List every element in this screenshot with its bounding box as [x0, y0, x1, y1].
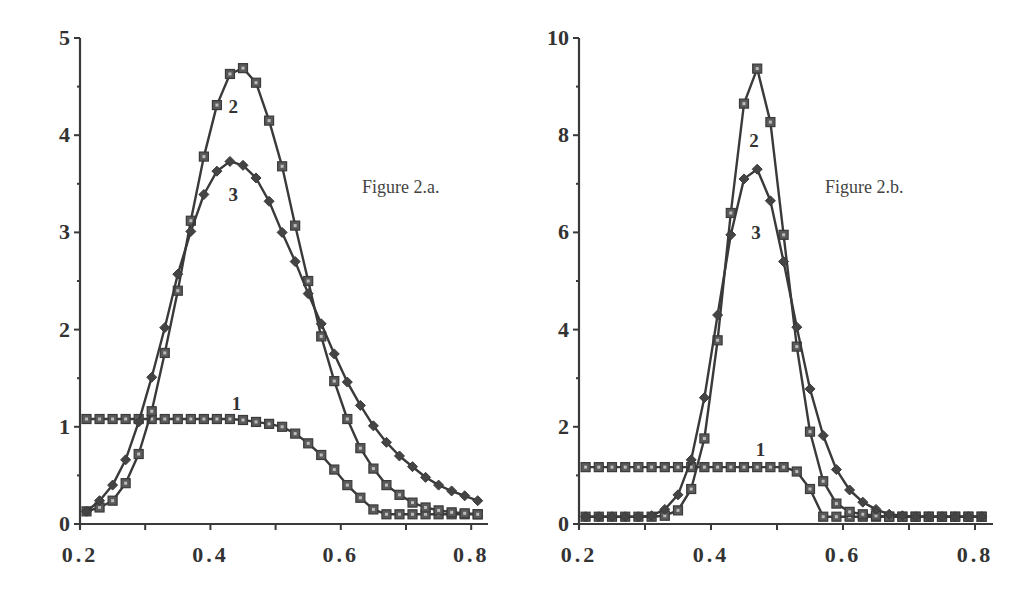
curve-label-1: 1 [756, 439, 766, 460]
square-marker-center [346, 418, 349, 421]
square-marker-center [795, 345, 798, 348]
x-tick-label: 0.2 [561, 542, 598, 567]
square-marker-center [98, 506, 101, 509]
square-marker-center [333, 380, 336, 383]
square-marker-center [163, 418, 166, 421]
square-marker-center [228, 72, 231, 75]
series-2: 2 [82, 64, 482, 519]
square-marker-center [822, 480, 825, 483]
square-marker-center [294, 432, 297, 435]
square-marker-center [411, 513, 414, 516]
square-marker-center [861, 513, 864, 516]
square-marker-center [769, 121, 772, 124]
square-marker-center [677, 509, 680, 512]
square-marker-center [359, 447, 362, 450]
square-marker-center [320, 453, 323, 456]
square-marker-center [450, 511, 453, 514]
square-marker-center [202, 155, 205, 158]
diamond-marker [765, 196, 775, 206]
diamond-marker [473, 496, 483, 506]
y-tick-label: 5 [59, 25, 70, 50]
y-tick-label: 2 [558, 414, 569, 439]
square-marker-center [242, 67, 245, 70]
x-tick-label: 0.6 [825, 542, 862, 567]
square-marker-center [215, 418, 218, 421]
square-marker-center [215, 104, 218, 107]
square-marker-center [124, 418, 127, 421]
series-2: 2 [581, 64, 986, 521]
square-marker-center [398, 513, 401, 516]
square-marker-center [716, 466, 719, 469]
square-marker-center [111, 418, 114, 421]
square-marker-center [202, 418, 205, 421]
square-marker-center [346, 484, 349, 487]
diamond-marker [818, 431, 828, 441]
diamond-marker [699, 393, 709, 403]
square-marker-center [703, 437, 706, 440]
square-marker-center [597, 466, 600, 469]
square-marker-center [163, 351, 166, 354]
square-marker-center [650, 466, 653, 469]
square-marker-center [281, 425, 284, 428]
square-marker-center [359, 496, 362, 499]
y-tick-label: 1 [59, 414, 70, 439]
series-1: 1 [581, 439, 986, 522]
y-tick-label: 4 [59, 122, 70, 147]
square-marker-center [98, 418, 101, 421]
square-marker-center [822, 515, 825, 518]
diamond-marker [147, 372, 157, 382]
square-marker-center [111, 499, 114, 502]
curve-label-2: 2 [228, 96, 238, 117]
square-marker-center [281, 165, 284, 168]
square-marker-center [411, 501, 414, 504]
square-marker-center [835, 515, 838, 518]
square-marker-center [242, 418, 245, 421]
square-marker-center [424, 513, 427, 516]
diamond-marker [121, 455, 131, 465]
square-marker-center [385, 513, 388, 516]
square-marker-center [795, 470, 798, 473]
square-marker-center [637, 466, 640, 469]
diamond-marker [264, 196, 274, 206]
y-tick-label: 10 [547, 25, 569, 50]
chart-figure-2a: 0123450.20.40.60.8123Figure 2.a. [59, 25, 489, 567]
square-marker-center [176, 418, 179, 421]
square-marker-center [743, 102, 746, 105]
square-marker-center [716, 339, 719, 342]
square-marker-center [809, 488, 812, 491]
curve-label-2: 2 [749, 130, 759, 151]
square-marker-center [137, 453, 140, 456]
square-marker-center [150, 410, 153, 413]
series-line [87, 68, 478, 514]
square-marker-center [729, 211, 732, 214]
square-marker-center [769, 466, 772, 469]
diamond-marker [277, 227, 287, 237]
square-marker-center [624, 466, 627, 469]
square-marker-center [372, 467, 375, 470]
square-marker-center [320, 335, 323, 338]
square-marker-center [437, 509, 440, 512]
square-marker-center [385, 484, 388, 487]
square-marker-center [690, 488, 693, 491]
square-marker-center [743, 466, 746, 469]
diamond-marker [342, 377, 352, 387]
square-marker-center [333, 468, 336, 471]
x-tick-label: 0.2 [62, 542, 99, 567]
square-marker-center [268, 422, 271, 425]
figure-title: Figure 2.a. [362, 177, 439, 197]
curve-label-3: 3 [228, 184, 238, 205]
square-marker-center [584, 466, 587, 469]
y-tick-label: 2 [59, 317, 70, 342]
chart-figure-2b: 02468100.20.40.60.8123Figure 2.b. [547, 25, 993, 567]
square-marker-center [782, 233, 785, 236]
square-marker-center [663, 466, 666, 469]
y-tick-label: 3 [59, 219, 70, 244]
figure-2-charts: 0123450.20.40.60.8123Figure 2.a. 0246810… [0, 0, 1033, 593]
y-tick-label: 8 [558, 122, 569, 147]
square-marker-center [756, 466, 759, 469]
square-marker-center [255, 81, 258, 84]
square-marker-center [476, 513, 479, 516]
series-3: 3 [82, 156, 483, 516]
figure-title: Figure 2.b. [825, 177, 904, 197]
x-tick-label: 0.4 [192, 542, 229, 567]
